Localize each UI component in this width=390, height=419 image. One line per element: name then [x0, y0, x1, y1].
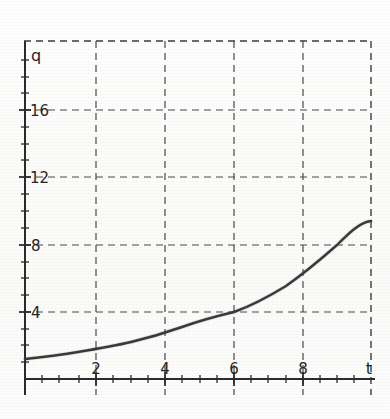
q-of-t-curve [25, 221, 371, 359]
x-tick-label-8: 8 [298, 360, 308, 378]
y-tick-label-8: 8 [31, 237, 41, 255]
data-curve-group [25, 221, 371, 359]
x-tick-label-6: 6 [229, 360, 239, 378]
y-tick-label-12: 12 [30, 169, 49, 187]
x-tick-label-4: 4 [160, 360, 170, 378]
growth-curve-line [25, 310, 234, 359]
y-tick-label-4: 4 [31, 304, 41, 322]
x-axis-label: t [366, 359, 372, 378]
x-axis [25, 372, 375, 386]
figure-root: 16 12 8 4 2 4 6 8 q t [0, 0, 390, 419]
exponential-curve [25, 307, 234, 359]
horizontal-gridlines [24, 110, 371, 312]
q-of-t-curve-halo [25, 221, 371, 359]
y-tick-label-16: 16 [30, 102, 49, 120]
plot-frame [24, 41, 371, 395]
exponential-growth-chart: 16 12 8 4 2 4 6 8 q t [0, 0, 390, 419]
y-axis [19, 41, 31, 395]
y-axis-label: q [31, 46, 41, 65]
exponential-curve-stroke [25, 301, 234, 359]
y-tick-labels: 16 12 8 4 [30, 102, 49, 322]
x-tick-label-2: 2 [91, 360, 101, 378]
